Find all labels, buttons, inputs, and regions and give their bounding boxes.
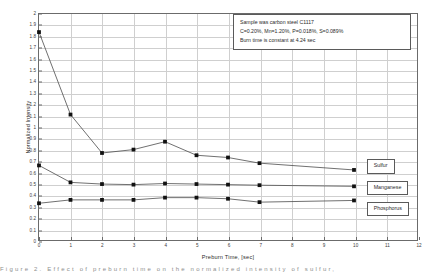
y-tick-label: 1.8 (30, 35, 36, 40)
y-tick-label: 0.7 (30, 160, 36, 165)
y-tick-label: 1 (33, 126, 36, 131)
data-point-manganese (258, 183, 262, 187)
data-point-sulfur (163, 140, 167, 144)
annotation-line-3: Burn time is constant at 4.24 sec (240, 36, 405, 45)
y-tick-label: 0.4 (30, 194, 36, 199)
y-tick-label: 0 (33, 240, 36, 245)
data-point-sulfur (100, 151, 104, 155)
data-point-manganese (195, 182, 199, 186)
y-tick-label: 0.9 (30, 137, 36, 142)
data-point-phosphorus (132, 198, 136, 202)
y-tick-label: 1.4 (30, 80, 36, 85)
y-tick-label: 1.9 (30, 23, 36, 28)
x-tick-label: 7 (259, 244, 262, 249)
data-point-sulfur (132, 148, 136, 152)
data-point-phosphorus (226, 197, 230, 201)
y-axis-title: Normalized Intensity (25, 101, 31, 154)
figure-chart: Normalized Intensity 012345678910111200.… (0, 0, 436, 277)
y-tick-label: 1.7 (30, 46, 36, 51)
y-tick-label: 0.3 (30, 206, 36, 211)
y-tick-label: 0.5 (30, 183, 36, 188)
x-tick-label: 12 (416, 244, 421, 249)
x-tick-label: 5 (196, 244, 199, 249)
series-label-manganese: Manganese (367, 181, 409, 195)
y-tick-label: 0.8 (30, 149, 36, 154)
data-point-phosphorus (163, 196, 167, 200)
y-tick-label: 0.1 (30, 228, 36, 233)
x-tick-label: 11 (385, 244, 390, 249)
data-point-phosphorus (352, 199, 356, 203)
data-point-manganese (352, 184, 356, 188)
y-tick-label: 1.6 (30, 57, 36, 62)
x-axis-title: Preburn Time, [sec] (38, 254, 418, 260)
figure-caption: Figure 2. Effect of preburn time on the … (0, 266, 436, 277)
x-tick-label: 8 (291, 244, 294, 249)
x-tick-label: 9 (323, 244, 326, 249)
series-label-phosphorus: Phosphorus (367, 202, 409, 216)
annotation-box: Sample was carbon steel C1117 C=0.20%, M… (233, 14, 411, 50)
series-label-sulfur: Sulfur (367, 159, 395, 173)
data-point-phosphorus (100, 198, 104, 202)
annotation-line-1: Sample was carbon steel C1117 (240, 18, 405, 27)
x-tick-label: 6 (228, 244, 231, 249)
annotation-line-2: C=0.20%, Mn=1.20%, P=0.018%, S=0.089% (240, 27, 405, 36)
y-tick-label: 1.1 (30, 114, 36, 119)
x-tick-label: 0 (38, 244, 41, 249)
data-point-manganese (37, 164, 41, 168)
data-point-phosphorus (69, 198, 73, 202)
y-tick-label: 1.3 (30, 92, 36, 97)
x-tick-label: 10 (353, 244, 358, 249)
data-point-manganese (163, 182, 167, 186)
x-tick-label: 2 (101, 244, 104, 249)
x-tick-label: 1 (69, 244, 72, 249)
data-point-sulfur (37, 30, 41, 34)
x-tick-label: 3 (133, 244, 136, 249)
data-point-sulfur (352, 168, 356, 172)
data-point-phosphorus (37, 201, 41, 205)
data-point-phosphorus (195, 196, 199, 200)
y-tick-label: 1.2 (30, 103, 36, 108)
data-point-sulfur (258, 161, 262, 165)
data-point-manganese (100, 182, 104, 186)
series-line-sulfur (39, 32, 354, 170)
y-tick-mark (39, 242, 42, 243)
data-point-manganese (69, 180, 73, 184)
y-tick-label: 1.5 (30, 69, 36, 74)
y-tick-label: 0.2 (30, 217, 36, 222)
data-point-manganese (132, 183, 136, 187)
y-tick-label: 0.6 (30, 171, 36, 176)
x-tick-label: 4 (164, 244, 167, 249)
y-axis-title-wrap: Normalized Intensity (0, 13, 14, 241)
data-point-sulfur (69, 113, 73, 117)
x-tick-mark (419, 237, 420, 240)
data-point-sulfur (195, 153, 199, 157)
y-tick-label: 2 (33, 12, 36, 17)
data-point-manganese (226, 183, 230, 187)
data-point-sulfur (226, 156, 230, 160)
data-point-phosphorus (258, 200, 262, 204)
